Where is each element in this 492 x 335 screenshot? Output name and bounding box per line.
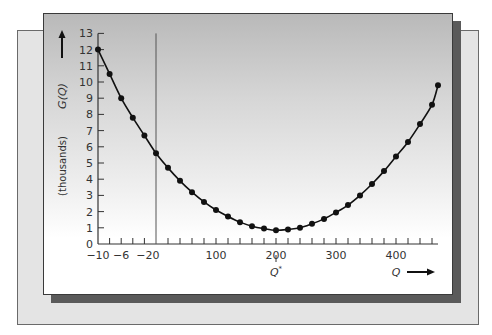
data-point	[165, 165, 171, 171]
y-tick-label: 10	[79, 76, 93, 89]
y-tick-label: 8	[86, 108, 93, 121]
x-tick-label: 400	[386, 249, 407, 262]
data-point	[309, 221, 315, 227]
y-tick-label: 9	[86, 92, 93, 105]
data-point	[393, 154, 399, 160]
data-point	[213, 207, 219, 213]
data-point	[249, 223, 255, 229]
data-point	[201, 199, 207, 205]
y-tick-label: 6	[86, 141, 93, 154]
data-series-gq	[95, 47, 441, 234]
data-point	[429, 102, 435, 108]
chart-plot: 012345678910111213−10−6−20100200300400 G…	[0, 0, 492, 335]
y-tick-label: 13	[79, 27, 93, 40]
data-point	[261, 226, 267, 232]
y-tick-label: 1	[86, 222, 93, 235]
q-star-label: Q*	[270, 265, 283, 279]
x-axis-arrow-icon	[407, 269, 435, 276]
data-point	[333, 209, 339, 215]
data-point	[345, 202, 351, 208]
data-point	[405, 139, 411, 145]
y-tick-label: 2	[86, 206, 93, 219]
data-point	[297, 225, 303, 231]
data-point	[130, 115, 136, 121]
data-point	[225, 213, 231, 219]
y-tick-label: 11	[79, 60, 93, 73]
data-point	[321, 216, 327, 222]
y-tick-label: 5	[86, 157, 93, 170]
y-tick-label: 3	[86, 189, 93, 202]
y-tick-label: 7	[86, 125, 93, 138]
data-point	[435, 82, 441, 88]
data-point	[381, 168, 387, 174]
data-point	[237, 219, 243, 225]
x-axis-title: Q	[392, 266, 401, 279]
x-tick-label: −2	[136, 249, 152, 262]
x-tick-label: 300	[326, 249, 347, 262]
data-point	[177, 178, 183, 184]
data-point	[153, 150, 159, 156]
gq-curve	[98, 50, 438, 231]
data-point	[417, 121, 423, 127]
data-point	[141, 132, 147, 138]
y-axis-units: (thousands)	[57, 136, 68, 196]
data-point	[369, 181, 375, 187]
x-tick-label: −10	[86, 249, 109, 262]
y-tick-label: 12	[79, 44, 93, 57]
data-point	[118, 95, 124, 101]
data-point	[357, 192, 363, 198]
x-tick-label: 100	[206, 249, 227, 262]
y-tick-label: 4	[86, 173, 93, 186]
y-axis-title: G(Q)	[56, 83, 69, 109]
data-point	[95, 47, 101, 53]
data-point	[189, 189, 195, 195]
x-tick-label: 0	[153, 249, 160, 262]
x-tick-label: −6	[113, 249, 129, 262]
data-point	[273, 227, 279, 233]
data-point	[285, 226, 291, 232]
y-axis-arrow-icon	[59, 30, 66, 58]
data-point	[107, 71, 113, 77]
